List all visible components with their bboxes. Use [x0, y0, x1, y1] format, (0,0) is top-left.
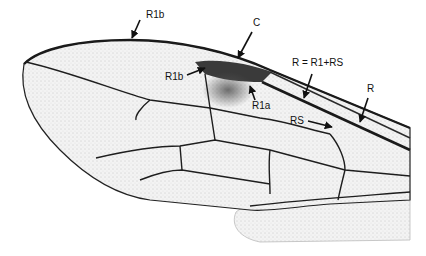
label-r1a: R1a — [252, 101, 270, 111]
label-r: R — [367, 84, 374, 94]
label-r1b-inner: R1b — [165, 72, 183, 82]
label-r-equals: R = R1+RS — [292, 58, 343, 68]
label-c: C — [253, 18, 260, 28]
wing-diagram — [0, 0, 426, 256]
label-r1b-top: R1b — [146, 10, 164, 20]
label-rs: RS — [290, 116, 304, 126]
